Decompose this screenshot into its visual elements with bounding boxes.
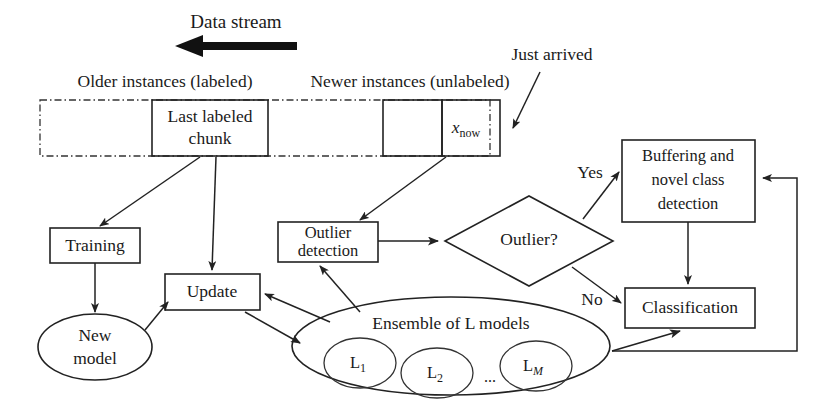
stream-region-outline: [40, 100, 490, 156]
new-model-label-line2: model: [73, 348, 117, 368]
ensemble-ellipse: [292, 297, 610, 395]
update-label: Update: [187, 281, 238, 301]
x-now-label: xnow: [451, 117, 481, 140]
model-2-subscript: 2: [437, 371, 443, 385]
newer-instance-cell-empty: [383, 100, 442, 156]
edge-ensemble-to-outlier-detection: [320, 266, 360, 312]
yes-edge-label: Yes: [577, 162, 603, 182]
edge-xnow-to-outlier-detection: [360, 157, 446, 220]
edge-ensemble-to-classification: [612, 331, 680, 351]
outlier-decision-label: Outlier?: [500, 229, 558, 249]
model-1-label: L1: [350, 353, 366, 375]
just-arrived-arrow: [513, 72, 540, 128]
just-arrived-label: Just arrived: [511, 44, 592, 64]
last-labeled-chunk-label-line2: chunk: [189, 128, 232, 148]
newer-instances-label: Newer instances (unlabeled): [310, 71, 509, 91]
ensemble-title-label: Ensemble of L models: [372, 313, 529, 333]
x-now-base: x: [451, 117, 460, 137]
model-m-label: LM: [523, 356, 544, 378]
model-1-base: L: [350, 353, 360, 372]
model-m-subscript: M: [532, 364, 544, 378]
no-edge-label: No: [581, 289, 603, 309]
new-model-label-line1: New: [78, 325, 111, 345]
buffering-label-line2: novel class: [652, 170, 725, 189]
outlier-detection-label-line2: detection: [298, 241, 358, 260]
buffering-label-line3: detection: [658, 194, 718, 213]
edge-chunk-to-training: [100, 157, 200, 226]
data-stream-arrow-icon: [175, 35, 297, 57]
data-stream-label: Data stream: [190, 11, 281, 32]
training-label: Training: [65, 235, 125, 255]
outlier-detection-label-line1: Outlier: [305, 223, 352, 242]
buffering-label-line1: Buffering and: [642, 146, 735, 165]
older-instances-label: Older instances (labeled): [78, 71, 253, 91]
x-now-subscript: now: [460, 126, 481, 140]
model-2-label: L2: [427, 363, 443, 385]
model-2-base: L: [427, 363, 437, 382]
model-ellipsis-label: ...: [484, 368, 496, 385]
flow-diagram: Data stream Older instances (labeled) Ne…: [0, 0, 836, 415]
edge-update-to-ensemble: [245, 312, 300, 343]
model-m-base: L: [523, 356, 533, 375]
diagram-canvas: Data stream Older instances (labeled) Ne…: [0, 0, 836, 415]
model-1-subscript: 1: [360, 361, 366, 375]
edge-chunk-to-update: [212, 157, 216, 270]
classification-label: Classification: [642, 297, 738, 317]
new-model-ellipse: [38, 314, 152, 380]
last-labeled-chunk-label-line1: Last labeled: [167, 106, 252, 126]
